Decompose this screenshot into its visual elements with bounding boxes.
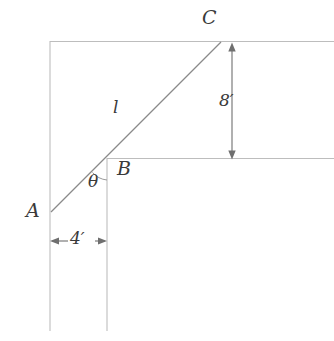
angle-label-theta: θ (88, 173, 98, 190)
vertical-dimension-arrow-up (228, 43, 235, 52)
dimension-label-8ft: 8′ (219, 92, 234, 109)
horizontal-dimension-arrow-left (50, 237, 59, 244)
length-label-l: l (113, 99, 118, 116)
hypotenuse-line-ac (51, 42, 221, 212)
horizontal-dimension-arrow-right (98, 237, 107, 244)
point-label-c: C (202, 8, 217, 27)
point-label-a: A (26, 201, 40, 220)
geometry-diagram: A B C θ l 4′ 8′ (0, 0, 334, 341)
point-label-b: B (117, 159, 131, 178)
dimension-label-4ft: 4′ (70, 230, 85, 247)
diagram-canvas (0, 0, 334, 341)
